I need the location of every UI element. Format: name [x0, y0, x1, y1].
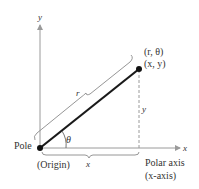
rect-point-label: (x, y): [144, 58, 166, 70]
origin-label: (Origin): [37, 159, 70, 171]
x-length-label: x: [85, 159, 90, 169]
y-axis-label: y: [37, 12, 42, 22]
r-label: r: [76, 88, 80, 98]
r-brace: [34, 55, 132, 140]
x-brace: [42, 152, 139, 158]
x-axis-label: x: [182, 143, 187, 153]
pole-label: Pole: [14, 140, 32, 151]
polar-point-label: (r, θ): [144, 46, 163, 58]
polar-axis-label: Polar axis: [145, 157, 185, 168]
theta-label: θ: [66, 134, 71, 145]
endpoint: [136, 66, 142, 72]
y-length-label: y: [141, 104, 146, 114]
polar-coordinates-diagram: y x (r, θ) (x, y) r y x θ Pole (Origin) …: [0, 0, 199, 189]
radius-segment: [40, 69, 139, 148]
polar-axis-sublabel: (x-axis): [145, 170, 176, 182]
pole-point: [37, 145, 43, 151]
